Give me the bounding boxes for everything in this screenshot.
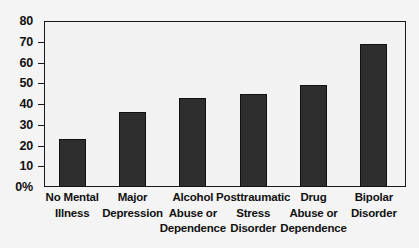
- y-axis-tick-label: 50: [19, 76, 33, 90]
- bars-layer: [44, 21, 406, 187]
- y-axis-tick-label: 80: [19, 14, 33, 28]
- bar: [240, 94, 267, 187]
- y-axis-tick-label: 0%: [15, 180, 33, 194]
- x-axis-category-labels: No MentalIllnessMajorDepressionAlcoholAb…: [44, 190, 406, 248]
- y-axis-tick-label: 40: [19, 97, 33, 111]
- bar: [119, 112, 146, 187]
- x-axis-label-line: Bipolar: [336, 190, 412, 206]
- bar-chart: 80706050403020100% No MentalIllnessMajor…: [0, 0, 419, 248]
- x-axis-label-line: Disorder: [336, 206, 412, 222]
- y-axis-tick-label: 70: [19, 35, 33, 49]
- x-axis-label: BipolarDisorder: [336, 190, 412, 221]
- bar: [179, 98, 206, 187]
- x-axis-label-line: Dependence: [276, 221, 352, 237]
- y-axis-tick-label: 60: [19, 56, 33, 70]
- bar: [59, 139, 86, 187]
- bar: [360, 44, 387, 187]
- y-axis-tick-label: 10: [19, 159, 33, 173]
- y-axis-tick-label: 20: [19, 139, 33, 153]
- bar: [300, 85, 327, 187]
- y-axis-tick-label: 30: [19, 118, 33, 132]
